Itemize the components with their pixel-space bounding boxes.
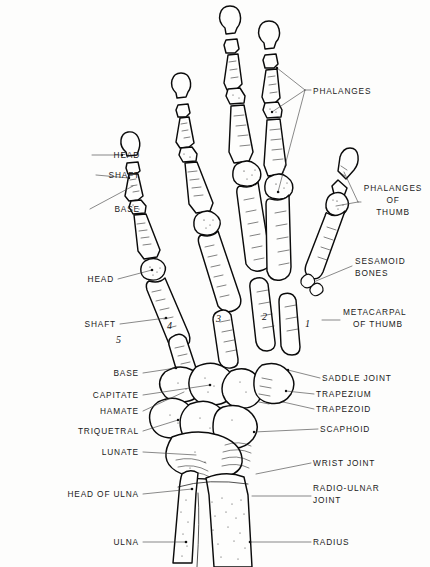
label-trapezium: TRAPEZIUM bbox=[316, 389, 372, 399]
label-base-metacarpal: BASE bbox=[113, 368, 139, 378]
label-radio-ulnar-joint-line1: RADIO-ULNAR bbox=[313, 483, 380, 493]
label-ulna: ULNA bbox=[113, 537, 139, 547]
finger-3 bbox=[220, 6, 271, 271]
label-sesamoid-line2: BONES bbox=[355, 268, 388, 278]
label-phalanges: PHALANGES bbox=[313, 86, 371, 96]
left-label-group: HEAD SHAFT BASE HEAD SHAFT BASE CAPITATE… bbox=[67, 150, 140, 547]
metacarpal-number-5: 5 bbox=[116, 334, 121, 345]
hand-skeleton-figure: HEAD SHAFT BASE HEAD SHAFT BASE CAPITATE… bbox=[0, 0, 430, 567]
label-phalanges-thumb-line1: PHALANGES bbox=[364, 183, 422, 193]
thumb bbox=[301, 148, 358, 296]
metacarpal-number-2: 2 bbox=[262, 311, 267, 322]
label-shaft-phalanx: SHAFT bbox=[109, 170, 140, 180]
label-capitate: CAPITATE bbox=[93, 390, 139, 400]
label-saddle-joint: SADDLE JOINT bbox=[322, 373, 392, 383]
label-radio-ulnar-joint-line2: JOINT bbox=[313, 495, 341, 505]
label-sesamoid-line1: SESAMOID bbox=[355, 256, 406, 266]
label-shaft-metacarpal: SHAFT bbox=[85, 319, 116, 329]
label-lunate: LUNATE bbox=[102, 447, 139, 457]
ulna-bone bbox=[173, 471, 198, 563]
right-label-group: PHALANGES PHALANGES OF THUMB SESAMOID BO… bbox=[313, 86, 422, 547]
label-head-metacarpal: HEAD bbox=[88, 274, 114, 284]
label-wrist-joint: WRIST JOINT bbox=[313, 458, 375, 468]
metacarpal-number-4: 4 bbox=[167, 320, 172, 331]
label-trapezoid: TRAPEZOID bbox=[316, 404, 371, 414]
leader-trapezoid bbox=[283, 402, 314, 409]
label-triquetral: TRIQUETRAL bbox=[78, 426, 139, 436]
leader-wrist-joint bbox=[256, 463, 311, 474]
label-base-phalanx: BASE bbox=[114, 204, 140, 214]
diagram-page: HEAD SHAFT BASE HEAD SHAFT BASE CAPITATE… bbox=[0, 0, 430, 567]
radius-bone bbox=[206, 474, 252, 567]
label-phalanges-thumb-line3: THUMB bbox=[376, 207, 410, 217]
leader-phalanges-distal bbox=[277, 68, 305, 90]
label-scaphoid: SCAPHOID bbox=[320, 424, 370, 434]
radio-ulnar-joint-line bbox=[197, 493, 199, 567]
carpal-bones bbox=[150, 363, 294, 479]
finger-5 bbox=[121, 132, 190, 349]
leader-scaphoid bbox=[254, 429, 318, 432]
label-metacarpal-thumb-line2: OF THUMB bbox=[353, 319, 403, 329]
label-head-of-ulna: HEAD OF ULNA bbox=[67, 489, 139, 499]
forearm-bones bbox=[173, 471, 252, 567]
label-head-phalanx: HEAD bbox=[114, 150, 140, 160]
label-phalanges-thumb-line2: OF bbox=[386, 195, 399, 205]
label-radius: RADIUS bbox=[313, 537, 349, 547]
label-metacarpal-thumb-line1: METACARPAL bbox=[343, 307, 407, 317]
label-hamate: HAMATE bbox=[100, 406, 139, 416]
metacarpal-number-1: 1 bbox=[305, 318, 310, 329]
metacarpal-number-3: 3 bbox=[215, 313, 221, 324]
